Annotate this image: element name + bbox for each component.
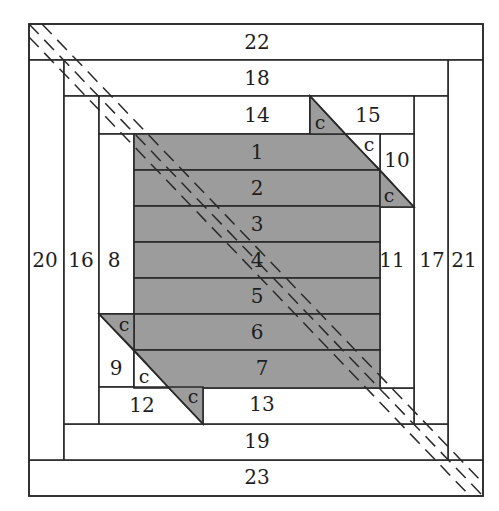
label-21: 21	[451, 248, 476, 272]
label-c-strip1: c	[364, 133, 375, 155]
label-23: 23	[244, 465, 269, 489]
label-17: 17	[419, 248, 444, 272]
label-strip-2: 2	[251, 176, 264, 200]
piece-8	[99, 134, 134, 314]
piece-11	[380, 207, 414, 388]
label-strip-4: 4	[251, 248, 264, 272]
piece-14	[99, 96, 310, 134]
label-strip-6: 6	[251, 320, 264, 344]
label-8: 8	[108, 248, 121, 272]
label-9: 9	[110, 356, 123, 380]
label-c-strip7: c	[139, 365, 150, 387]
label-20: 20	[32, 248, 57, 272]
label-15: 15	[355, 103, 380, 127]
label-18: 18	[244, 66, 269, 90]
label-c-bottom: c	[188, 385, 199, 407]
label-10: 10	[384, 148, 409, 172]
label-strip-5: 5	[251, 284, 264, 308]
piece-13	[203, 388, 414, 424]
label-c-top: c	[315, 111, 326, 133]
label-14: 14	[244, 103, 269, 127]
label-c-left: c	[119, 313, 130, 335]
label-strip-1: 1	[251, 140, 264, 164]
label-12: 12	[129, 393, 154, 417]
label-11: 11	[379, 248, 404, 272]
label-13: 13	[249, 392, 274, 416]
label-c-right: c	[384, 184, 395, 206]
label-16: 16	[68, 248, 93, 272]
label-strip-7: 7	[256, 356, 269, 380]
label-strip-3: 3	[251, 212, 264, 236]
label-19: 19	[244, 429, 269, 453]
quilt-block-diagram: 22 18 14 15 10 1 2 3 4 5 6 7 20 16 8 11 …	[0, 0, 499, 511]
label-22: 22	[244, 30, 269, 54]
